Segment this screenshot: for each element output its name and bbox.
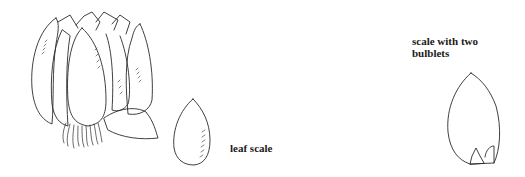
leaf-scale-label: leaf scale: [230, 142, 272, 154]
bulb-illustration: [32, 12, 158, 148]
scale-with-bulblets-label: scale with two bulblets: [412, 35, 502, 59]
scale-with-bulblets-label-line1: scale with two: [412, 35, 502, 47]
scale-with-bulblets-illustration: [448, 73, 500, 164]
leaf-scale-illustration: [174, 99, 210, 165]
scale-with-bulblets-label-line2: bulblets: [412, 47, 502, 59]
